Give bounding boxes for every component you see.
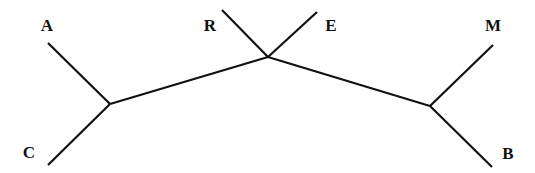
leaf-branch-m — [430, 45, 493, 106]
leaf-branch-b — [430, 106, 492, 167]
leaf-label-m: M — [485, 16, 501, 35]
internal-branch-n2-n3 — [268, 57, 430, 106]
leaf-label-e: E — [325, 16, 336, 35]
leaf-branch-a — [48, 43, 110, 104]
leaf-label-b: B — [502, 144, 513, 163]
leaf-label-c: C — [23, 143, 35, 162]
leaf-label-a: A — [41, 16, 54, 35]
leaf-label-r: R — [204, 16, 217, 35]
leaf-branch-c — [48, 104, 110, 165]
leaf-branch-e — [268, 12, 317, 57]
phylogenetic-tree: ACREMB — [0, 0, 535, 173]
internal-branch-n1-n2 — [110, 57, 268, 104]
tree-branches — [48, 10, 493, 167]
leaf-branch-r — [222, 10, 268, 57]
